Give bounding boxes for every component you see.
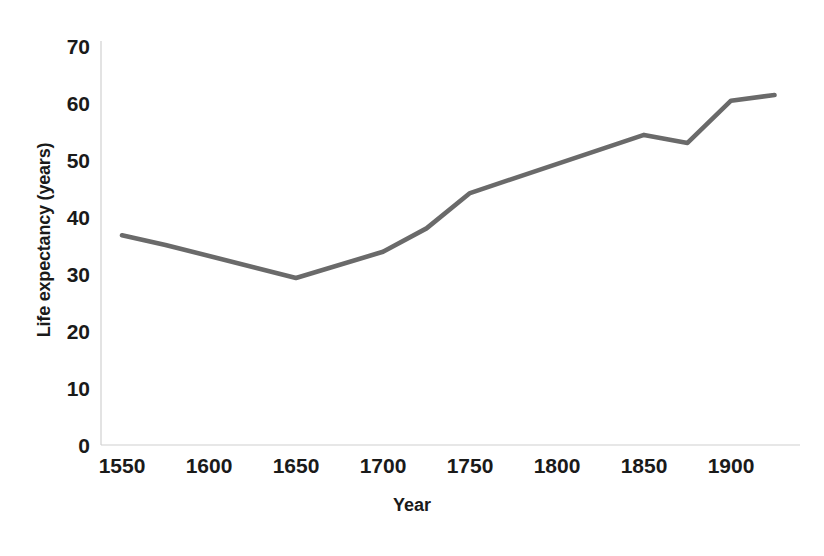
x-tick-label: 1600 (186, 455, 233, 476)
x-axis-title: Year (0, 495, 824, 516)
x-tick-label: 1900 (708, 455, 755, 476)
x-tick-label: 1750 (447, 455, 494, 476)
x-tick-label: 1550 (99, 455, 146, 476)
line-chart: Life expectancy (years) 010203040506070 … (0, 0, 824, 556)
x-tick-label: 1800 (534, 455, 581, 476)
data-series-life-expectancy (122, 95, 775, 278)
x-tick-label: 1850 (621, 455, 668, 476)
x-tick-label: 1650 (273, 455, 320, 476)
x-axis-tick-labels: 15501600165017001750180018501900 (0, 455, 824, 487)
x-tick-label: 1700 (360, 455, 407, 476)
